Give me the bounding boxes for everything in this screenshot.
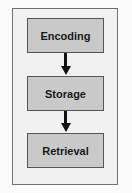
arrow-down-icon — [61, 53, 71, 76]
arrow-down-icon — [61, 111, 71, 133]
node-retrieval-label: Retrieval — [42, 145, 88, 157]
node-storage: Storage — [27, 76, 104, 111]
node-storage-label: Storage — [45, 88, 86, 100]
node-encoding-label: Encoding — [40, 30, 90, 42]
node-encoding: Encoding — [27, 18, 104, 53]
node-retrieval: Retrieval — [27, 133, 104, 168]
